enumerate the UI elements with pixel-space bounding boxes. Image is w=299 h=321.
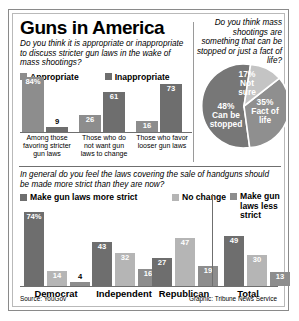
bar-value: 61 [103, 93, 125, 101]
chart2-group-total: 49 30 13 [224, 236, 290, 286]
source-attribution: Source: YouGov [20, 295, 66, 302]
bar-value: 19 [198, 267, 218, 275]
legend-label-no-change: No change [182, 192, 226, 202]
legend-swatch-no-change [172, 194, 179, 201]
pie-label-can-be-stopped: 48% Can be stopped [207, 102, 245, 130]
chart-mass-shootings-pie: 48% Can be stopped 35% Fact of life 17% … [202, 64, 286, 148]
chart1-plot: 84% 9 26 61 16 [20, 70, 192, 132]
bar-value: 13 [270, 273, 290, 281]
bar-value: 27 [152, 259, 172, 267]
bar-appropriate-looser: 16 [136, 121, 158, 132]
chart-handgun-laws-by-party: 74% 14 4 43 32 [20, 206, 278, 306]
bar-value: 49 [224, 237, 244, 245]
chart1-category-labels: Among those favoring stricter gun laws T… [20, 134, 192, 164]
bar-value: 9 [46, 118, 68, 126]
bar-total-less-strict: 13 [270, 272, 290, 286]
bar-value: 16 [136, 122, 158, 130]
horizontal-divider [19, 166, 281, 167]
legend-label-more-strict: Make gun laws more strict [30, 192, 137, 202]
bar-democrat-more-strict: 74% [24, 212, 44, 286]
pie-text-not-sure: Not sure [238, 78, 256, 97]
chart1-group-stricter: 84% 9 [22, 77, 68, 132]
bar-independent-more-strict: 43 [92, 242, 112, 286]
legend-item-more-strict: Make gun laws more strict [20, 192, 137, 202]
pie-label-not-sure: 17% Not sure [232, 70, 262, 98]
chart-appropriate-discussion: 84% 9 26 61 16 [20, 70, 192, 164]
pie-text-can-be-stopped: Can be stopped [210, 110, 243, 129]
infographic-inner-border: Guns in America Do you think it is appro… [12, 13, 285, 307]
question-3-text: In general do you feel the laws covering… [20, 170, 278, 190]
bar-value: 43 [92, 243, 112, 251]
bar-total-more-strict: 49 [224, 236, 244, 286]
chart1-baseline [20, 132, 192, 133]
chart2-group-republican: 27 47 19 [152, 238, 218, 286]
pie-label-fact-of-life: 35% Fact of life [248, 98, 282, 126]
bar-total-no-change: 30 [247, 255, 267, 286]
bar-appropriate-stricter: 84% [22, 77, 44, 132]
chart2-baseline [20, 286, 278, 287]
vertical-divider [193, 22, 194, 162]
bar-appropriate-nochange: 26 [79, 115, 101, 132]
chart1-label-looser: Those who favor looser gun laws [134, 134, 190, 150]
chart2-group-independent: 43 32 16 [92, 242, 158, 286]
chart2-plot: 74% 14 4 43 32 [20, 206, 278, 286]
bar-value: 74% [24, 213, 44, 221]
top-section: Guns in America Do you think it is appro… [13, 14, 286, 166]
bar-democrat-no-change: 14 [47, 271, 67, 286]
chart2-total-divider [212, 194, 213, 286]
chart1-label-stricter: Among those favoring stricter gun laws [20, 134, 74, 159]
bar-value: 26 [79, 116, 101, 124]
bar-value: 47 [175, 239, 195, 247]
legend-item-no-change: No change [172, 192, 226, 202]
page-title: Guns in America [20, 18, 192, 37]
bar-inappropriate-looser: 73 [160, 84, 182, 132]
graphic-credit: Graphic: Tribune News Service [189, 295, 277, 302]
bar-value: 84% [22, 78, 44, 86]
question-2-text: Do you think mass shootings are somethin… [196, 18, 282, 66]
bar-value: 32 [115, 254, 135, 262]
bar-value: 73 [160, 85, 182, 93]
bar-republican-no-change: 47 [175, 238, 195, 286]
infographic-frame: Guns in America Do you think it is appro… [8, 9, 289, 311]
bar-value: 14 [47, 272, 67, 280]
bar-republican-more-strict: 27 [152, 258, 172, 286]
legend-swatch-less-strict [230, 193, 237, 200]
chart2-group-democrat: 74% 14 4 [24, 212, 90, 286]
question-1-text: Do you think it is appropriate or inappr… [20, 39, 192, 68]
bar-republican-less-strict: 19 [198, 266, 218, 286]
legend-swatch-more-strict [20, 194, 27, 201]
bottom-section: In general do you feel the laws covering… [13, 168, 286, 308]
pie-text-fact-of-life: Fact of life [251, 106, 278, 125]
chart1-group-nochange: 26 61 [79, 92, 125, 132]
bar-inappropriate-nochange: 61 [103, 92, 125, 132]
bar-independent-no-change: 32 [115, 253, 135, 286]
bar-value: 4 [70, 273, 90, 281]
bar-value: 30 [247, 256, 267, 264]
chart1-group-looser: 16 73 [136, 84, 182, 132]
right-column: Do you think mass shootings are somethin… [196, 18, 282, 66]
chart1-label-nochange: Those who do not want gun laws to change [77, 134, 131, 159]
